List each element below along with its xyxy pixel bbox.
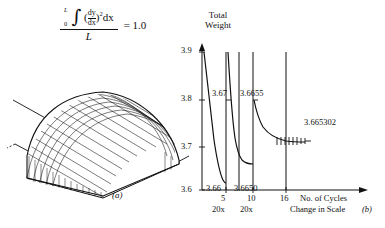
y-tick-3-6: 3.6 bbox=[181, 184, 192, 194]
formula-denominator: L bbox=[82, 30, 96, 42]
scale-marker-2: 20x bbox=[240, 204, 253, 214]
y-tick-3-7: 3.7 bbox=[181, 141, 192, 151]
formula-numerator: L 0 ∫ (dydx)2dx bbox=[60, 8, 118, 29]
panel-b-caption: (b) bbox=[362, 204, 372, 214]
y-axis-title-line2: Weight bbox=[197, 21, 239, 31]
scale-change-dividers bbox=[226, 52, 286, 190]
formula-equals-value: = 1.0 bbox=[124, 20, 147, 31]
derivative-denominator: dx bbox=[88, 19, 96, 27]
annotation-seg2-high: 3.67 bbox=[212, 88, 227, 98]
scale-marker-1: 20x bbox=[212, 204, 225, 214]
integral-upper-limit: L bbox=[64, 7, 68, 14]
curve-segment-2 bbox=[228, 52, 253, 164]
integral-lower-limit: 0 bbox=[64, 21, 68, 28]
x-tick-5: 5 bbox=[221, 193, 225, 203]
formula-differential: dx bbox=[103, 11, 114, 23]
constraint-formula: L 0 ∫ (dydx)2dx L = 1.0 bbox=[60, 8, 146, 42]
curve-segment-3 bbox=[254, 100, 305, 142]
derivative-fraction: dydx bbox=[88, 9, 96, 27]
annotation-converged-value: 3.665302 bbox=[304, 117, 336, 127]
panel-a-caption: (a) bbox=[112, 190, 123, 200]
x-tick-16: 16 bbox=[280, 193, 289, 203]
derivative-numerator: dy bbox=[88, 9, 96, 17]
y-tick-3-8: 3.8 bbox=[181, 93, 192, 103]
figure-root: L 0 ∫ (dydx)2dx L = 1.0 bbox=[0, 0, 385, 228]
formula-fraction: L 0 ∫ (dydx)2dx L bbox=[60, 8, 118, 42]
x-axis-title-line2: Change in Scale bbox=[290, 204, 345, 214]
integral-limits: L 0 bbox=[64, 7, 68, 27]
shell-surface-mesh-plot bbox=[5, 52, 195, 202]
annotation-seg3-high: 3.6655 bbox=[240, 88, 263, 98]
annotation-seg1-low: 3.66 bbox=[206, 183, 221, 193]
integral-sign: ∫ bbox=[71, 5, 81, 27]
y-axis-title: Total Weight bbox=[197, 11, 239, 30]
y-axis bbox=[199, 43, 205, 190]
surface-outline bbox=[27, 92, 179, 196]
annotation-seg2-low: 3.6650 bbox=[234, 183, 257, 193]
curve-segment-1 bbox=[204, 52, 226, 183]
y-tick-3-9: 3.9 bbox=[181, 45, 192, 55]
x-tick-10: 10 bbox=[247, 193, 256, 203]
x-axis-title-line1: No. of Cycles bbox=[300, 193, 347, 203]
